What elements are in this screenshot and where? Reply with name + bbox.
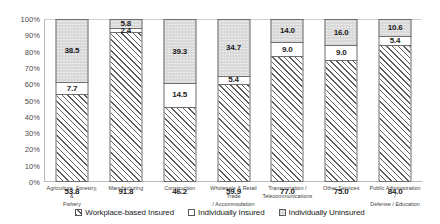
bar-slot: 10.65.484.0 — [368, 19, 422, 182]
legend-label: Individually Uninsured — [289, 208, 365, 217]
stacked-bar[interactable]: 5.82.491.8 — [109, 19, 142, 182]
bar-value-label: 9.0 — [336, 49, 347, 57]
stacked-bar-chart: 100%90%80%70%60%50%40%30%20%10%0% 38.57.… — [0, 0, 440, 224]
bar-value-label: 39.3 — [172, 48, 187, 56]
legend-swatch-icon — [188, 209, 195, 216]
bar-value-label: 5.4 — [390, 37, 401, 45]
y-axis-tick-label: 90% — [0, 31, 40, 40]
bar-segment[interactable]: 59.9 — [217, 84, 250, 182]
bar-value-label: 2.4 — [121, 27, 132, 35]
bar-segment[interactable]: 16.0 — [325, 19, 358, 45]
bar-value-label: 14.0 — [280, 27, 295, 35]
bar-segment[interactable]: 84.0 — [379, 45, 412, 182]
stacked-bar[interactable]: 14.09.077.0 — [271, 19, 304, 182]
legend-label: Workplace-based Insured — [85, 208, 174, 217]
bar-value-label: 7.7 — [67, 85, 78, 93]
bar-segment[interactable]: 14.5 — [163, 83, 196, 107]
legend-label: Individually Insured — [198, 208, 265, 217]
y-axis-tick-label: 30% — [0, 129, 40, 138]
bar-segment[interactable]: 10.6 — [379, 19, 412, 36]
stacked-bar[interactable]: 34.75.459.9 — [217, 19, 250, 182]
bar-segment[interactable]: 7.7 — [55, 82, 88, 95]
x-axis-label: Construction — [153, 185, 207, 208]
legend-swatch-icon — [75, 209, 82, 216]
bar-segment[interactable]: 53.8 — [55, 94, 88, 182]
clipped-title-text — [28, 0, 30, 3]
bar-value-label: 16.0 — [334, 29, 349, 37]
x-axis-label: Agriculture, Forestry, &Fishery — [45, 185, 99, 208]
y-axis-tick-label: 50% — [0, 96, 40, 105]
clipped-title-remnant — [0, 0, 440, 7]
y-axis: 100%90%80%70%60%50%40%30%20%10%0% — [0, 19, 40, 182]
bar-value-label: 9.0 — [282, 46, 293, 54]
bar-value-label: 10.6 — [388, 24, 403, 32]
y-axis-tick-label: 70% — [0, 63, 40, 72]
bar-value-label: 34.7 — [226, 44, 241, 52]
bar-segment[interactable]: 34.7 — [217, 19, 250, 76]
bar-slot: 5.82.491.8 — [99, 19, 153, 182]
x-axis-labels: Agriculture, Forestry, &FisheryManufactu… — [45, 185, 422, 208]
bar-segment[interactable]: 75.0 — [325, 60, 358, 182]
bar-slot: 16.09.075.0 — [314, 19, 368, 182]
bar-segment[interactable]: 77.0 — [271, 56, 304, 182]
stacked-bar[interactable]: 39.314.546.2 — [163, 19, 196, 182]
x-axis-label: Manufacturing — [99, 185, 153, 208]
bar-segment[interactable]: 5.4 — [217, 76, 250, 85]
y-axis-tick-label: 20% — [0, 145, 40, 154]
bar-value-label: 5.4 — [228, 76, 239, 84]
y-axis-tick-label: 0% — [0, 178, 40, 187]
legend-item[interactable]: Workplace-based Insured — [75, 208, 174, 217]
bar-segment[interactable]: 38.5 — [55, 19, 88, 82]
stacked-bar[interactable]: 16.09.075.0 — [325, 19, 358, 182]
y-axis-tick-label: 60% — [0, 80, 40, 89]
bar-segment[interactable]: 46.2 — [163, 107, 196, 182]
bar-segment[interactable]: 14.0 — [271, 19, 304, 42]
bar-segment[interactable]: 9.0 — [271, 42, 304, 57]
bar-group: 38.57.753.85.82.491.839.314.546.234.75.4… — [45, 19, 422, 182]
bar-slot: 34.75.459.9 — [207, 19, 261, 182]
bar-value-label: 38.5 — [65, 47, 80, 55]
x-axis-label: Public Administration /Defense / Educati… — [368, 185, 422, 208]
bar-slot: 38.57.753.8 — [45, 19, 99, 182]
bar-slot: 39.314.546.2 — [153, 19, 207, 182]
stacked-bar[interactable]: 10.65.484.0 — [379, 19, 412, 182]
x-axis-label: Wholesale & Retail Trade/ Accommodation — [207, 185, 261, 208]
y-axis-tick-label: 100% — [0, 15, 40, 24]
stacked-bar[interactable]: 38.57.753.8 — [55, 19, 88, 182]
legend-swatch-icon — [279, 209, 286, 216]
bar-segment[interactable]: 91.8 — [109, 32, 142, 182]
x-axis-label: Other Services — [314, 185, 368, 208]
bar-segment[interactable]: 5.4 — [379, 36, 412, 45]
bar-slot: 14.09.077.0 — [260, 19, 314, 182]
y-axis-tick-label: 80% — [0, 47, 40, 56]
y-axis-tick-label: 10% — [0, 161, 40, 170]
chart-legend: Workplace-based InsuredIndividually Insu… — [0, 208, 440, 217]
legend-item[interactable]: Individually Uninsured — [279, 208, 365, 217]
x-axis-label: Transportation /Telecommunications — [260, 185, 314, 208]
bar-segment[interactable]: 9.0 — [325, 45, 358, 60]
y-axis-tick-label: 40% — [0, 112, 40, 121]
bar-segment[interactable]: 39.3 — [163, 19, 196, 83]
legend-item[interactable]: Individually Insured — [188, 208, 265, 217]
bar-value-label: 14.5 — [172, 91, 187, 99]
